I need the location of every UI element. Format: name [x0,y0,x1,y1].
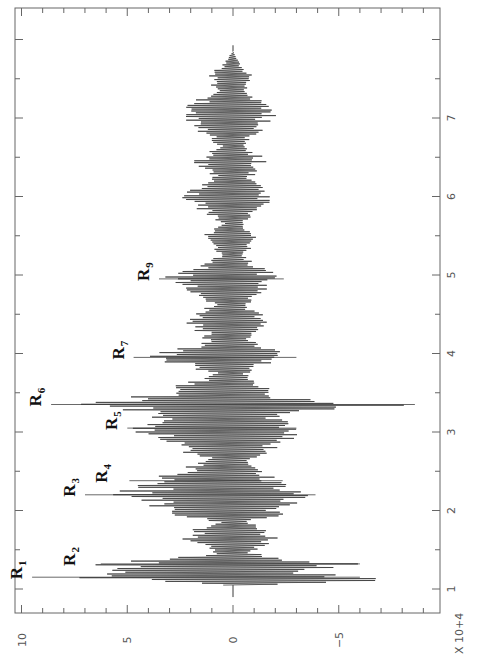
peak-label-r5: R5 [102,411,123,430]
peak-label-r3: R3 [60,478,81,497]
peak-label-r1: R1 [7,560,28,579]
time-tick-label: 2 [445,507,458,514]
peak-label-r7: R7 [109,340,130,359]
time-tick-label: 7 [445,115,458,122]
value-tick-label: 0 [227,637,240,644]
waveform-signal [32,45,415,597]
time-tick-label: 5 [445,272,458,279]
time-tick-label: 1 [445,586,458,593]
peak-label-r4: R4 [92,463,113,482]
waveform-chart: 1050−5 1234567 R1R2R3R4R5R6R7R9 X 10+4 [0,0,480,663]
x-axis-multiplier-label: X 10+4 [453,613,466,654]
value-tick-label: 10 [16,633,29,647]
peak-label-r9: R9 [134,262,155,281]
time-tick-label: 4 [445,350,458,357]
peak-label-r2: R2 [60,547,81,566]
value-tick-label: 5 [121,637,134,644]
peak-label-r6: R6 [26,387,47,406]
peak-annotations: R1R2R3R4R5R6R7R9 [7,262,155,580]
time-tick-label: 6 [445,193,458,200]
value-tick-label: −5 [333,632,346,648]
time-tick-label: 3 [445,429,458,436]
